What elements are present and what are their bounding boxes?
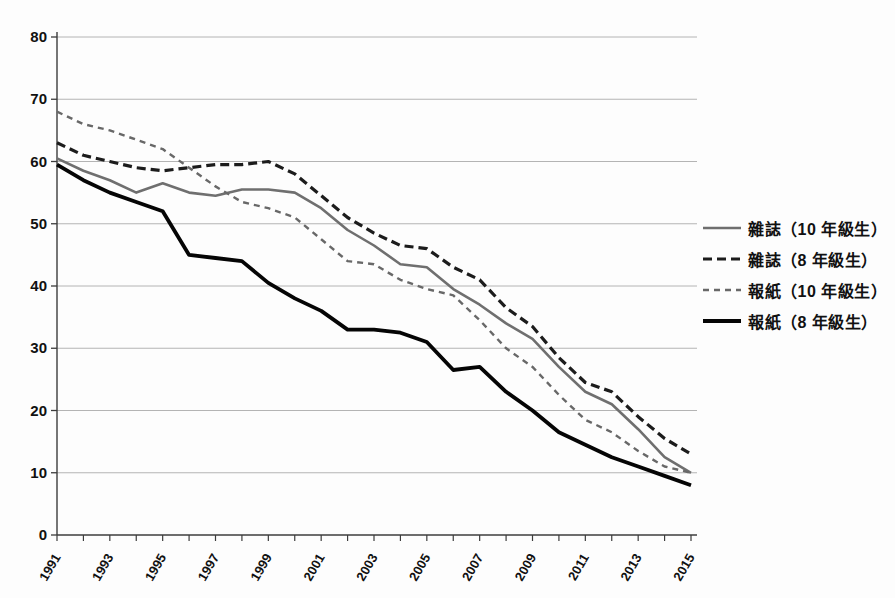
x-axis-label-2001: 2001 [300,551,327,584]
legend-line-sample-3 [702,314,742,328]
series-line-3 [57,165,691,486]
legend-item-magazine-8th: 雜誌（8 年級生） [702,243,887,274]
legend-item-newspaper-10th: 報紙（10 年級生） [702,274,887,305]
x-axis-label-2013: 2013 [617,551,644,584]
y-axis-label-20: 20 [30,402,47,419]
y-axis-label-0: 0 [39,526,47,543]
y-axis-label-70: 70 [30,90,47,107]
x-axis-label-1995: 1995 [142,551,169,584]
y-axis-label-10: 10 [30,464,47,481]
y-axis-label-40: 40 [30,277,47,294]
legend-line-sample-2 [702,283,742,297]
x-axis-label-2005: 2005 [406,551,433,584]
y-axis-label-50: 50 [30,215,47,232]
x-axis-label-1999: 1999 [247,551,274,584]
legend-label-newspaper-8th: 報紙（8 年級生） [748,309,878,333]
legend-item-newspaper-8th: 報紙（8 年級生） [702,305,887,336]
series-line-2 [57,112,691,473]
legend-item-magazine-10th: 雜誌（10 年級生） [702,212,887,243]
y-axis-label-30: 30 [30,339,47,356]
legend-label-magazine-8th: 雜誌（8 年級生） [748,247,878,271]
chart-legend: 雜誌（10 年級生） 雜誌（8 年級生） 報紙（10 年級生） 報紙（8 年級生… [702,212,887,336]
x-axis-label-2015: 2015 [670,551,697,584]
x-axis-label-1991: 1991 [36,551,63,584]
x-axis-label-2009: 2009 [512,551,539,584]
x-axis-label-1997: 1997 [195,551,222,584]
y-axis-label-60: 60 [30,153,47,170]
x-axis-label-2011: 2011 [565,551,592,583]
legend-label-magazine-10th: 雜誌（10 年級生） [748,216,887,240]
legend-line-sample-1 [702,252,742,266]
series-line-1 [57,143,691,454]
chart-page: 0102030405060708019911993199519971999200… [0,0,895,598]
legend-line-sample-0 [702,221,742,235]
x-axis-label-2003: 2003 [353,551,380,584]
x-axis-label-1993: 1993 [89,551,116,584]
x-axis-label-2007: 2007 [459,551,486,584]
legend-label-newspaper-10th: 報紙（10 年級生） [748,278,887,302]
y-axis-label-80: 80 [30,28,47,45]
